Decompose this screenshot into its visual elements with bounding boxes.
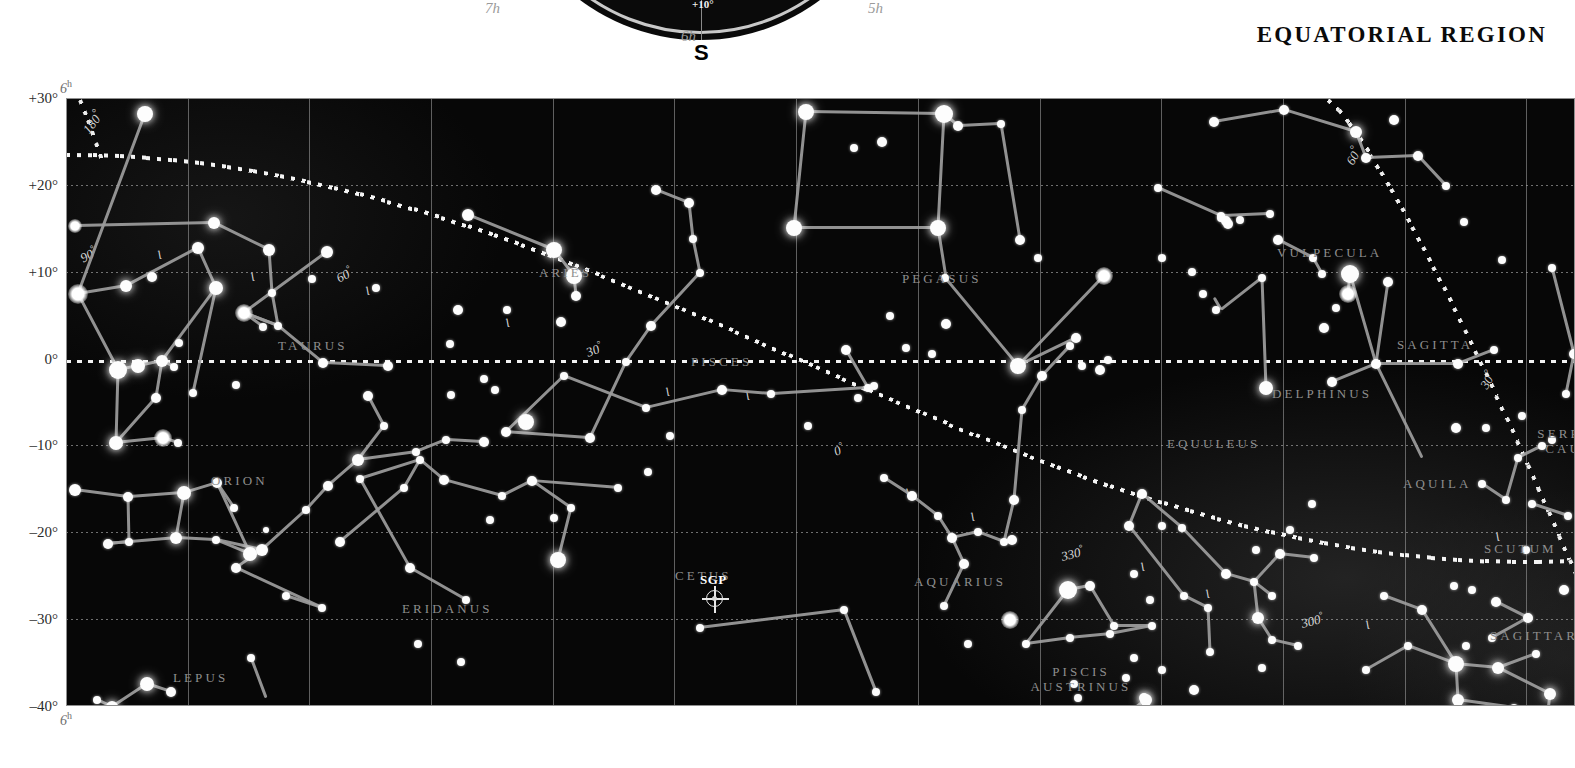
star [1490, 346, 1498, 354]
star [137, 106, 153, 122]
star [1146, 596, 1154, 604]
star [947, 533, 957, 543]
star [243, 547, 257, 561]
star [1095, 365, 1105, 375]
star [930, 220, 946, 236]
star [907, 491, 917, 501]
star [1371, 359, 1381, 369]
grid-ra-7 [188, 98, 189, 706]
star [1442, 182, 1450, 190]
constellation-label-vulpecula: VULPECULA [1277, 245, 1382, 261]
star [318, 358, 328, 368]
star [230, 504, 238, 512]
star [1341, 265, 1359, 283]
star [480, 375, 488, 383]
star [940, 602, 948, 610]
star [1010, 358, 1026, 374]
star [1209, 117, 1219, 127]
star [644, 468, 652, 476]
star [1066, 342, 1074, 350]
star [1308, 500, 1316, 508]
star [501, 427, 511, 437]
inset-ra-label-7h: 7h [485, 0, 500, 17]
inset-ra-label-5h: 5h [868, 0, 883, 17]
star [1502, 496, 1510, 504]
dec-tick--40: –40° [0, 698, 58, 715]
star [308, 275, 316, 283]
star [1319, 323, 1329, 333]
dec-tick--30: –30° [0, 611, 58, 628]
star [1250, 578, 1258, 586]
star [120, 280, 132, 292]
star [1178, 524, 1186, 532]
star [1468, 586, 1476, 594]
star [259, 323, 267, 331]
constellation-label-aquila: AQUILA [1403, 476, 1471, 492]
star [928, 350, 936, 358]
star [666, 432, 674, 440]
star [1071, 333, 1081, 343]
star [1310, 554, 1318, 562]
star [1074, 694, 1082, 702]
star [479, 437, 489, 447]
star [175, 339, 183, 347]
star [498, 492, 506, 500]
star [486, 516, 494, 524]
star [383, 361, 393, 371]
star [109, 436, 123, 450]
star [1252, 612, 1264, 624]
star [556, 317, 566, 327]
constellation-label-serpens: SERPENSCAUDA [1537, 426, 1575, 456]
dec-tick-30: +30° [0, 90, 58, 107]
star [189, 389, 197, 397]
star [1528, 500, 1536, 508]
star-chart[interactable]: 90°60°30°0°330°300°llllllllllll 180°60°3… [66, 98, 1575, 706]
star [1095, 267, 1113, 285]
star [1258, 664, 1266, 672]
star [642, 404, 650, 412]
star [1350, 126, 1362, 138]
star [1339, 285, 1357, 303]
star [696, 269, 704, 277]
star [1510, 704, 1518, 706]
star [405, 563, 415, 573]
star [1258, 274, 1266, 282]
star [166, 687, 176, 697]
star [941, 319, 951, 329]
star [585, 433, 595, 443]
star [804, 422, 812, 430]
grid-ra-8 [309, 98, 310, 706]
star [1158, 666, 1166, 674]
grid-dec--20 [66, 532, 1575, 533]
star [174, 439, 182, 447]
star [1236, 216, 1244, 224]
star [151, 393, 161, 403]
south-direction-marker: S [694, 40, 710, 66]
star [877, 137, 887, 147]
star [518, 414, 534, 430]
star [1259, 381, 1273, 395]
star [550, 514, 558, 522]
star [1532, 650, 1540, 658]
star [352, 454, 364, 466]
star [1361, 153, 1371, 163]
constellation-label-lepus: LEPUS [173, 670, 228, 686]
star [414, 640, 422, 648]
star [177, 486, 191, 500]
star [1478, 480, 1486, 488]
constellation-label-sagittarius: SAGITTARIUS [1490, 628, 1575, 644]
star [491, 386, 499, 394]
star [696, 624, 704, 632]
constellation-label-equuleus: EQUULEUS [1167, 436, 1260, 452]
constellation-label-sagitta: SAGITTA [1397, 337, 1473, 353]
star [1078, 362, 1086, 370]
star [109, 361, 127, 379]
star [1130, 570, 1138, 578]
star [103, 539, 113, 549]
star [841, 345, 851, 355]
star [767, 390, 775, 398]
star [1523, 613, 1533, 623]
star [1273, 235, 1283, 245]
grid-ra-17 [1405, 98, 1406, 706]
star [1562, 390, 1570, 398]
